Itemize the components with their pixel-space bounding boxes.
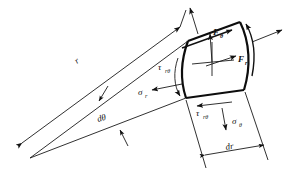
tau-inner-arrow (175, 58, 180, 96)
d-theta-label: dθ (96, 112, 108, 124)
radius-dimension (22, 10, 186, 143)
label-dr: dr (225, 141, 235, 152)
tau-bottom-arrow (197, 102, 232, 106)
sigma-r-label: σ (138, 87, 143, 97)
f-r-label: F (237, 54, 244, 64)
sigma-theta-arrow (222, 108, 226, 130)
radius-label: r (72, 55, 81, 65)
tau-r-theta-inner-label: τ (158, 62, 162, 72)
label-sigma-theta: σ θ (232, 116, 242, 128)
label-radius: r (72, 55, 81, 65)
f-theta-sub: θ (220, 33, 224, 39)
label-sigma-r: σ r (138, 87, 148, 99)
wedge-outline (30, 41, 188, 158)
stress-element-diagram: r dθ dr σ r σ θ τ rθ τ rθ F θ F (0, 0, 286, 172)
top-normal-arrow (190, 8, 198, 34)
sigma-r-sub: r (145, 93, 148, 99)
outer-radial-arrow (252, 30, 282, 42)
label-d-theta: dθ (96, 112, 108, 124)
label-tau-bottom: τ rθ (196, 108, 208, 120)
dr-dimension (186, 92, 268, 168)
dr-label: dr (225, 141, 235, 152)
label-tau-inner: τ rθ (158, 62, 170, 74)
sigma-theta-label: σ (232, 116, 237, 126)
tau-r-theta-bottom-label: τ (196, 108, 200, 118)
diagram-canvas: r dθ dr σ r σ θ τ rθ τ rθ F θ F (0, 0, 286, 172)
label-f-r: F r (237, 54, 248, 66)
f-theta-label: F (212, 27, 219, 37)
sigma-r-arrow (152, 84, 182, 90)
sigma-theta-sub: θ (239, 122, 242, 128)
tau-r-theta-bottom-sub: rθ (203, 114, 208, 120)
tau-r-theta-inner-sub: rθ (165, 68, 170, 74)
f-r-arrow (206, 56, 236, 66)
top-edge-shear-arrow (182, 30, 232, 48)
